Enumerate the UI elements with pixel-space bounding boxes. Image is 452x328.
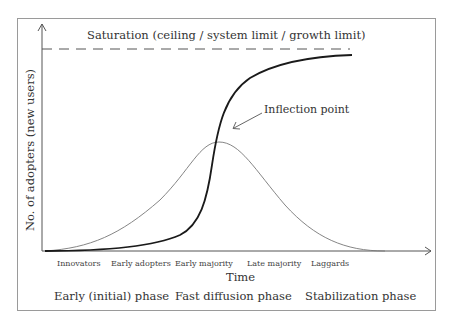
phase-early: Early (initial) phase	[54, 289, 169, 303]
s-curve	[45, 55, 352, 251]
inflection-label: Inflection point	[264, 103, 349, 116]
y-axis-label: No. of adopters (new users)	[23, 69, 37, 231]
category-innovators: Innovators	[57, 259, 101, 268]
y-axis	[38, 24, 46, 251]
category-early-majority: Early majority	[175, 259, 233, 268]
saturation-label: Saturation (ceiling / system limit / gro…	[87, 28, 366, 42]
phase-fast-diffusion: Fast diffusion phase	[175, 289, 292, 303]
phase-stabilization: Stabilization phase	[305, 289, 416, 303]
x-axis-label: Time	[226, 270, 255, 284]
bell-curve	[45, 142, 385, 251]
category-late-majority: Late majority	[247, 259, 301, 268]
x-axis	[42, 247, 431, 255]
inflection-arrow	[233, 113, 262, 129]
category-laggards: Laggards	[311, 259, 349, 268]
category-early-adopters: Early adopters	[111, 259, 171, 268]
